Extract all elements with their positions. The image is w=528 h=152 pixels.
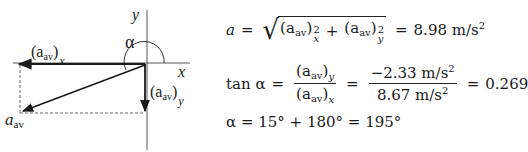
resultant-vector (23, 65, 145, 111)
component-ratio-fraction: (aav)y (aav)x (294, 62, 336, 105)
equals-sign: = (241, 21, 254, 39)
y-axis-label: y (132, 7, 139, 23)
vector-diagram (0, 0, 200, 152)
magnitude-equation: a = √ (aav)2x + (aav)2y = 8.98 m/s2 (226, 16, 485, 43)
x-axis-label: x (178, 64, 185, 80)
tangent-result: 0.269 (485, 75, 528, 93)
equals-sign: = (346, 75, 359, 93)
x-component-label: (aav)x (31, 44, 65, 67)
angle-equation-text: α = 15° + 180° = 195° (226, 113, 401, 131)
tangent-equation: tan α = (aav)y (aav)x = −2.33 m/s2 8.67 … (226, 62, 528, 105)
angle-equation: α = 15° + 180° = 195° (226, 113, 401, 131)
equals-sign: = (395, 21, 408, 39)
plus-sign: + (326, 22, 339, 40)
resultant-label: aav (5, 111, 24, 130)
radical-icon: √ (263, 16, 280, 43)
tangent-lhs: tan α (226, 75, 266, 93)
term-x: (aav)2x (280, 19, 320, 43)
angle-alpha-label: α (125, 33, 134, 51)
equals-sign: = (467, 75, 480, 93)
magnitude-result: 8.98 m/s2 (414, 20, 486, 39)
term-y: (aav)2y (344, 19, 384, 43)
y-component-label: (aav)y (150, 84, 184, 107)
magnitude-lhs: a (226, 21, 235, 39)
numeric-ratio-fraction: −2.33 m/s2 8.67 m/s2 (369, 63, 457, 104)
equals-sign: = (272, 75, 285, 93)
square-root: √ (aav)2x + (aav)2y (263, 16, 386, 43)
